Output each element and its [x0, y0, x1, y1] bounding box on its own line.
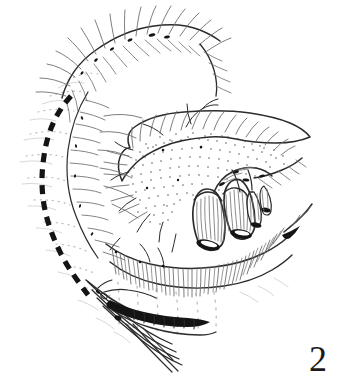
figure-number-label: 2	[300, 338, 336, 380]
inner-left-rim	[67, 92, 125, 260]
mass-vein-lines	[111, 99, 218, 242]
cut-tubes-group	[193, 167, 272, 252]
stippled-organ-mass	[104, 99, 310, 242]
line-drawing-canvas	[0, 0, 342, 386]
dashed-incision-line	[42, 96, 89, 296]
mass-left-fringe	[104, 151, 147, 223]
cut-tube-left	[193, 189, 225, 253]
inner-membrane-lines	[98, 114, 142, 218]
figure-illustration: 2	[0, 0, 342, 386]
upper-fringe-band	[36, 6, 231, 122]
